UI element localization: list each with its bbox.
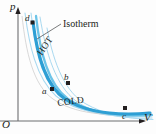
point-marker-d: [31, 21, 35, 25]
point-label-b: b: [64, 73, 69, 82]
cold-isotherm-curve: [36, 16, 152, 115]
y-axis-arrowhead: [15, 7, 20, 14]
origin-label: O: [2, 119, 10, 130]
point-marker-a: [50, 87, 54, 91]
point-label-d: d: [25, 14, 30, 23]
x-axis-label: V: [144, 112, 151, 123]
pv-diagram-figure: p V O d b a c Isotherm HOT COLD: [0, 0, 156, 134]
point-label-c: c: [122, 112, 126, 121]
point-label-a: a: [42, 87, 47, 96]
isotherm-annotation-label: Isotherm: [63, 19, 99, 29]
hot-isotherm-curve: [33, 22, 150, 114]
point-marker-c: [123, 106, 127, 110]
y-axis-label: p: [10, 1, 16, 12]
